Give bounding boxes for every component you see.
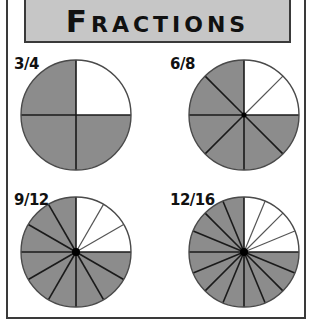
fraction-label-6-8: 6/8: [170, 55, 195, 73]
fraction-label-9-12: 9/12: [14, 191, 49, 209]
pie-12-of-16: [189, 197, 299, 307]
pie-9-of-12: [21, 197, 131, 307]
fraction-label-12-16: 12/16: [170, 191, 215, 209]
center-dot: [72, 248, 80, 256]
pie-charts: [0, 0, 312, 326]
center-dot: [240, 248, 248, 256]
fraction-label-3-4: 3/4: [14, 55, 39, 73]
empty-slice: [76, 60, 131, 115]
center-dot: [242, 113, 247, 118]
pie-3-of-4: [21, 60, 131, 170]
shaded-slice: [76, 115, 131, 170]
pie-6-of-8: [189, 60, 299, 170]
shaded-slice: [21, 115, 76, 170]
